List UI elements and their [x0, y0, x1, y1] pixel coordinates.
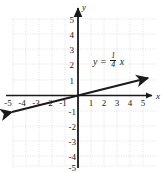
fraction-denominator: 4	[110, 60, 116, 69]
coordinate-plane: -5 -4 -3 -2 -1 1 2 3 4 5 5 4 3 2 1 -1 -2…	[0, 0, 164, 173]
x-tick-label: -4	[18, 98, 26, 108]
y-tick-label: 2	[70, 60, 75, 70]
y-tick-label: -4	[69, 152, 77, 162]
equation-fraction: 1 4	[110, 52, 116, 70]
x-tick-label: -2	[45, 98, 53, 108]
graph-figure: -5 -4 -3 -2 -1 1 2 3 4 5 5 4 3 2 1 -1 -2…	[0, 0, 164, 173]
y-tick-label: 5	[70, 15, 75, 25]
y-tick-label: -1	[69, 107, 77, 117]
x-tick-label: -5	[4, 98, 12, 108]
y-axis-label: y	[81, 2, 86, 12]
equation-annotation: y = 1 4 x	[93, 52, 124, 70]
x-tick-label: 1	[89, 98, 94, 108]
y-tick-label: 1	[70, 76, 75, 86]
x-tick-label: -1	[59, 98, 67, 108]
y-tick-label: 4	[70, 30, 75, 40]
fraction-numerator: 1	[110, 52, 116, 60]
x-axis-label: x	[155, 91, 160, 101]
equation-lhs: y	[93, 56, 97, 67]
x-tick-label: -3	[32, 98, 40, 108]
x-tick-label: 4	[128, 98, 133, 108]
y-tick-label: -5	[69, 163, 77, 173]
x-tick-label: 2	[102, 98, 107, 108]
y-tick-label: -2	[69, 122, 77, 132]
x-tick-label: 5	[141, 98, 146, 108]
equation-equals: =	[100, 56, 107, 67]
grid-horizontal-lines	[13, 19, 156, 166]
y-tick-label: -3	[69, 137, 77, 147]
y-tick-label: 3	[70, 45, 75, 55]
equation-variable: x	[120, 56, 124, 67]
y-axis-tick-labels: 5 4 3 2 1 -1 -2 -3 -4 -5	[69, 15, 77, 173]
x-tick-label: 3	[115, 98, 120, 108]
